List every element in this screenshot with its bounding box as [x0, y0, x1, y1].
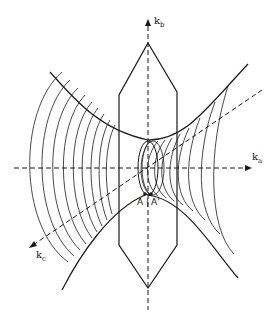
point-A-label: A: [137, 198, 143, 207]
right-contour-arcs: [141, 86, 234, 254]
left-contour-arcs: [30, 72, 115, 262]
diagram-canvas: [0, 0, 273, 316]
kb-arrow-icon: [145, 19, 151, 26]
kc-arrow-icon: [29, 241, 37, 248]
kb-axis-label: kb: [154, 16, 165, 29]
separator: |: [146, 198, 149, 207]
point-A-prime-label: A': [151, 198, 160, 207]
hyperboloid-diagram: kb ka kc A | A': [0, 0, 273, 316]
point-A-prime: [149, 192, 153, 196]
ka-axis-label: ka: [252, 152, 262, 165]
kc-axis-label: kc: [36, 250, 46, 263]
point-A: [143, 192, 147, 196]
ka-arrow-icon: [245, 165, 252, 171]
